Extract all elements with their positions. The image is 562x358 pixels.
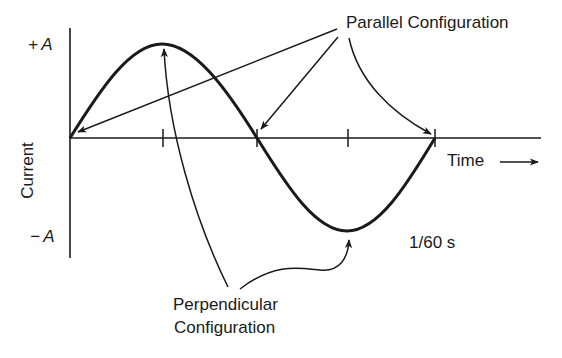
parallel-arrows xyxy=(78,29,431,134)
diagram-canvas xyxy=(0,0,562,358)
perpendicular-label-line2: Configuration xyxy=(174,319,275,336)
perpendicular-arrows xyxy=(164,49,349,289)
parallel-arrow-to-half-period xyxy=(261,37,338,129)
y-axis-label: Current xyxy=(19,141,36,201)
parallel-configuration-label: Parallel Configuration xyxy=(346,14,509,31)
period-label: 1/60 s xyxy=(409,234,455,251)
parallel-arrow-to-full-period xyxy=(349,38,431,134)
perpendicular-arrow-to-trough xyxy=(240,240,349,289)
x-axis-label: Time xyxy=(447,152,484,169)
parallel-arrow-to-origin xyxy=(78,29,337,132)
plus-a-label: + A xyxy=(28,36,53,53)
perpendicular-label-line1: Perpendicular xyxy=(173,296,278,313)
minus-a-label: − A xyxy=(30,228,55,245)
